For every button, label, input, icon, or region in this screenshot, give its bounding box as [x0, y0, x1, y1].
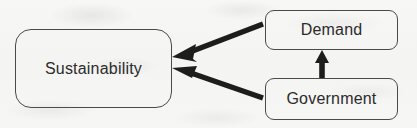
- edge-government-to-sustainability: [172, 66, 263, 98]
- node-sustainability[interactable]: Sustainability: [15, 29, 172, 108]
- node-government[interactable]: Government: [265, 78, 398, 120]
- node-demand-label: Demand: [301, 21, 363, 39]
- diagram-canvas: Sustainability Demand Government: [0, 0, 417, 128]
- edge-government-to-demand: [315, 50, 329, 78]
- node-government-label: Government: [286, 90, 376, 108]
- node-demand[interactable]: Demand: [265, 10, 398, 50]
- node-sustainability-label: Sustainability: [45, 60, 142, 78]
- edge-demand-to-sustainability: [172, 24, 263, 62]
